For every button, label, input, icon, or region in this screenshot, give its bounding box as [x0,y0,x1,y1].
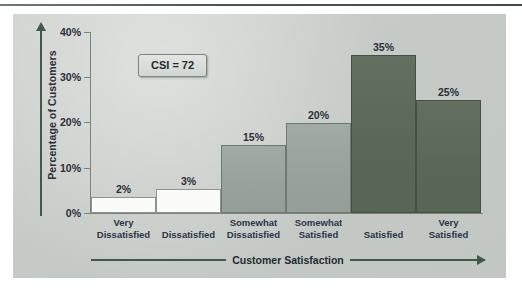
bar-somewhat-satisfied[interactable]: 20% [286,123,351,214]
bar-value-label: 15% [222,131,285,143]
category-label-somewhat-satisfied: Somewhat Satisfied [286,217,351,240]
y-tick-mark-10 [84,168,91,169]
category-label-satisfied: Satisfied [351,217,416,240]
x-axis-title: Customer Satisfaction [232,254,343,266]
x-axis-rule-left [91,259,226,261]
x-axis-category-labels: Very Dissatisfied Dissatisfied Somewhat … [91,217,481,240]
bar-satisfied[interactable]: 35% [351,55,416,213]
x-axis-title-row: Customer Satisfaction [91,253,485,267]
chart-panel: Percentage of Customers 40% 30% 20% 10% … [13,14,506,278]
category-label-dissatisfied: Dissatisfied [156,217,221,240]
category-line: Satisfied [417,229,480,241]
bar-dissatisfied[interactable]: 3% [156,189,221,213]
category-label-very-dissatisfied: Very Dissatisfied [91,217,156,240]
category-line: Dissatisfied [92,229,155,241]
y-tick-label-20: 20% [45,116,81,128]
csi-annotation-box: CSI = 72 [138,54,207,77]
bar-value-label: 3% [157,175,220,187]
y-axis-arrow-icon [40,30,42,216]
category-label-somewhat-dissatisfied: Somewhat Dissatisfied [221,217,286,240]
y-tick-mark-40 [84,32,91,33]
bar-slot: 20% [286,32,351,213]
category-line: Satisfied [287,229,350,241]
x-axis-baseline [91,213,483,214]
bar-very-satisfied[interactable]: 25% [416,100,481,213]
category-line: Dissatisfied [222,229,285,241]
y-tick-label-30: 30% [45,71,81,83]
y-tick-label-0: 0% [45,207,81,219]
y-tick-label-10: 10% [45,162,81,174]
y-tick-mark-30 [84,77,91,78]
bar-value-label: 35% [352,41,415,53]
category-line: Very [417,217,480,229]
category-line: Somewhat [222,217,285,229]
bar-very-dissatisfied[interactable]: 2% [91,197,156,213]
bar-value-label: 20% [287,109,350,121]
bar-slot: 15% [221,32,286,213]
category-label-very-satisfied: Very Satisfied [416,217,481,240]
x-axis-arrow-icon [350,259,485,261]
bar-slot: 35% [351,32,416,213]
category-line: Somewhat [287,217,350,229]
y-tick-label-40: 40% [45,26,81,38]
bar-value-label: 25% [417,86,480,98]
category-line: Very [92,217,155,229]
category-line: Dissatisfied [157,229,220,241]
category-line [157,217,220,229]
plot-area: Percentage of Customers 40% 30% 20% 10% … [13,14,506,278]
y-tick-mark-20 [84,122,91,123]
category-line: Satisfied [352,229,415,241]
bar-somewhat-dissatisfied[interactable]: 15% [221,145,286,213]
top-divider-rule [0,4,522,6]
bar-slot: 25% [416,32,481,213]
bar-value-label: 2% [92,183,155,195]
y-tick-mark-0 [84,213,91,214]
category-line [352,217,415,229]
